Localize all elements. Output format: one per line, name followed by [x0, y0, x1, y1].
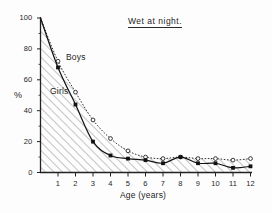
series-label-boys: Boys [66, 52, 86, 62]
x-tick-label: 7 [157, 179, 169, 188]
x-tick-label: 1 [52, 179, 64, 188]
y-tick-label: 60 [15, 75, 33, 84]
x-tick-label: 4 [105, 179, 117, 188]
y-axis-label: % [14, 90, 22, 100]
x-tick-label: 9 [192, 179, 204, 188]
x-tick-label: 3 [87, 179, 99, 188]
x-axis-label: Age (years) [120, 190, 166, 200]
x-tick-label: 11 [227, 179, 239, 188]
x-tick-label: 6 [140, 179, 152, 188]
x-tick-label: 8 [175, 179, 187, 188]
y-tick-label: 40 [15, 106, 33, 115]
y-tick-label: 100 [15, 13, 33, 22]
chart-figure: Wet at night. % Age (years) Boys Girls 0… [0, 0, 272, 213]
hatched-area [41, 18, 251, 173]
y-tick-label: 0 [15, 168, 33, 177]
y-tick-label: 80 [15, 44, 33, 53]
x-tick-label: 12 [245, 179, 257, 188]
x-tick-label: 2 [70, 179, 82, 188]
series-label-girls: Girls [50, 86, 68, 96]
x-tick-label: 10 [210, 179, 222, 188]
chart-title: Wet at night. [128, 16, 182, 28]
x-tick-label: 5 [122, 179, 134, 188]
y-tick-label: 20 [15, 137, 33, 146]
